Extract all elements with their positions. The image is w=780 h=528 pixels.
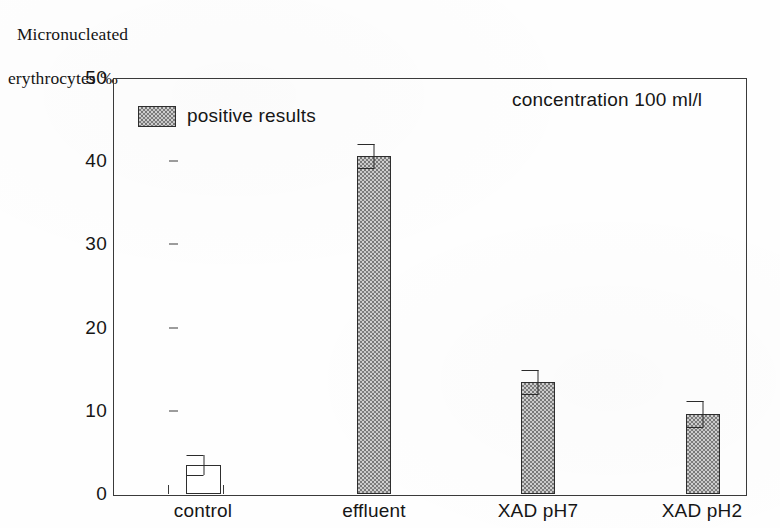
y-tick-mark-30 <box>169 244 178 245</box>
plot-frame <box>113 78 747 496</box>
x-tick-mark-2 <box>223 485 224 494</box>
error-bar-cap-lower-effluent <box>357 168 374 169</box>
error-bar-cap-upper-xad-ph2 <box>686 401 703 402</box>
y-tick-label-20: 20 <box>61 317 107 339</box>
positive-results-swatch <box>138 106 176 127</box>
y-tick-mark-10 <box>169 411 178 412</box>
y-tick-label-0: 0 <box>61 483 107 505</box>
error-bar-cap-upper-control <box>187 455 204 456</box>
error-bar-cap-lower-xad-ph7 <box>521 394 538 395</box>
error-bar-stem-control <box>203 455 204 475</box>
y-tick-label-30: 30 <box>61 233 107 255</box>
error-bar-cap-upper-effluent <box>357 144 374 145</box>
legend: positive results <box>138 105 316 127</box>
y-tick-label-40: 40 <box>61 150 107 172</box>
x-tick-mark-1 <box>168 485 169 494</box>
concentration-annotation: concentration 100 ml/l <box>512 89 702 111</box>
x-tick-label-xad-ph2: XAD pH2 <box>662 500 743 522</box>
y-axis: 50 40 30 20 10 0 <box>55 0 107 528</box>
legend-label-positive-results: positive results <box>187 105 316 127</box>
bar-effluent[interactable] <box>357 156 391 494</box>
bar-xad-ph7[interactable] <box>521 382 555 494</box>
y-tick-label-10: 10 <box>61 400 107 422</box>
x-tick-mark-0 <box>113 485 114 494</box>
x-tick-label-xad-ph7: XAD pH7 <box>498 500 579 522</box>
x-tick-label-control: control <box>174 500 232 522</box>
y-tick-mark-20 <box>169 328 178 329</box>
error-bar-cap-lower-xad-ph2 <box>686 427 703 428</box>
error-bar-cap-upper-xad-ph7 <box>521 370 538 371</box>
y-tick-mark-40 <box>169 161 178 162</box>
x-tick-label-effluent: effluent <box>342 500 406 522</box>
error-bar-stem-effluent <box>374 144 375 168</box>
error-bar-stem-xad-ph2 <box>703 401 704 427</box>
error-bar-cap-lower-control <box>187 475 204 476</box>
y-tick-label-50: 50 <box>61 67 107 89</box>
error-bar-stem-xad-ph7 <box>538 370 539 394</box>
